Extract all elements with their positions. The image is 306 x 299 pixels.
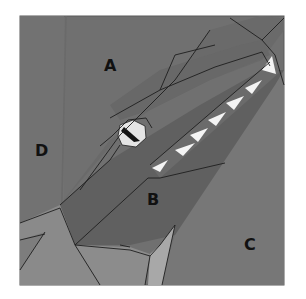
section-label-c: C: [244, 235, 256, 254]
section-label-b: B: [147, 190, 159, 209]
section-label-d: D: [35, 141, 48, 160]
section-label-a: A: [104, 56, 117, 75]
quilt-block-diagram: A B C D: [0, 0, 306, 299]
